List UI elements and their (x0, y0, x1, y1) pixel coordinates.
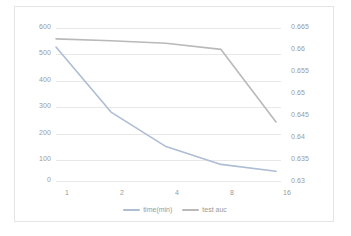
chart-plot-area: 600 500 400 300 200 100 0 0.665 0.66 0.6… (15, 7, 335, 223)
series-layer (15, 7, 335, 223)
series-line-test-auc (56, 39, 276, 122)
legend-swatch-icon (182, 209, 199, 211)
legend-label-time: time(min) (143, 206, 172, 213)
legend-item-test-auc[interactable]: test auc (182, 206, 227, 213)
chart-card: 600 500 400 300 200 100 0 0.665 0.66 0.6… (14, 6, 334, 222)
legend-swatch-icon (123, 209, 140, 211)
legend-label-test-auc: test auc (202, 206, 227, 213)
chart-legend: time(min) test auc (15, 206, 335, 213)
series-line-time (56, 47, 276, 171)
legend-item-time[interactable]: time(min) (123, 206, 172, 213)
